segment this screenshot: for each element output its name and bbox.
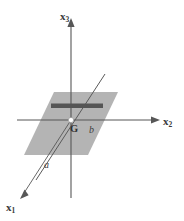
axis-label-x1: x1 bbox=[6, 202, 15, 213]
vector-label-b: b bbox=[89, 125, 94, 135]
x1-axis-arrowhead bbox=[20, 190, 29, 200]
axis-label-x2: x2 bbox=[163, 116, 172, 127]
origin-marker-dot bbox=[68, 117, 73, 122]
axis-label-x1-base: x bbox=[6, 201, 12, 213]
figure-canvas bbox=[0, 0, 184, 221]
axis-label-x2-base: x bbox=[163, 115, 169, 127]
axis-label-x2-sub: 2 bbox=[169, 120, 173, 129]
axis-label-x3-base: x bbox=[60, 10, 66, 22]
axis-label-x1-sub: 1 bbox=[12, 206, 16, 215]
axis-label-x3: x3 bbox=[60, 11, 69, 22]
x2-axis-arrowhead bbox=[151, 117, 160, 124]
vector-label-a: a bbox=[44, 160, 49, 170]
origin-label-g: G bbox=[70, 124, 78, 135]
dark-bar bbox=[51, 104, 103, 109]
coordinate-system-figure: x3 x2 x1 a b G bbox=[0, 0, 184, 221]
axis-label-x3-sub: 3 bbox=[66, 15, 70, 24]
